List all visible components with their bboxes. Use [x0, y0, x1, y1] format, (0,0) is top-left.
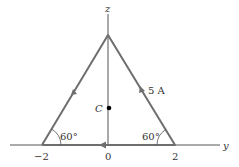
- y-axis-label: y: [222, 140, 229, 151]
- diagram-canvas: z y −2 0 2 60° 60° 5 A C: [0, 0, 239, 167]
- tick-minus-2: −2: [34, 151, 49, 162]
- center-point-c: [107, 106, 112, 111]
- tick-2: 2: [172, 151, 178, 162]
- tick-0: 0: [105, 151, 111, 162]
- angle-right-label: 60°: [142, 131, 160, 142]
- center-label: C: [95, 103, 103, 114]
- current-label: 5 A: [148, 85, 166, 96]
- arrow-base-icon: [99, 142, 106, 149]
- z-axis-label: z: [104, 3, 111, 14]
- triangle-loop-diagram: z y −2 0 2 60° 60° 5 A C: [0, 0, 239, 167]
- angle-left-label: 60°: [60, 131, 78, 142]
- arrow-right-side-icon: [139, 86, 145, 93]
